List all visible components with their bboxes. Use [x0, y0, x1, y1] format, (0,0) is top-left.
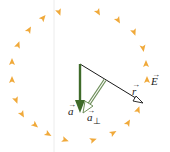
label-a: → a — [68, 106, 74, 117]
field-arrow-icon — [134, 105, 142, 114]
field-arrow-icon — [44, 130, 53, 139]
electric-field-diagram — [0, 0, 170, 152]
field-arrow-icon — [9, 76, 15, 83]
radius-vector-line — [80, 64, 139, 100]
field-arrow-icon — [89, 136, 98, 144]
field-arrow-icon — [61, 136, 70, 144]
field-arrow-icon — [94, 8, 103, 17]
field-arrow-icon — [39, 13, 48, 22]
label-a-perp: → a⊥ — [87, 112, 101, 123]
field-arrow-icon — [18, 110, 27, 119]
label-E: → E — [151, 76, 158, 87]
field-arrow-icon — [14, 40, 22, 49]
field-arrow-icon — [144, 76, 150, 83]
field-arrow-icon — [25, 25, 34, 34]
field-arrow-icon — [114, 16, 123, 25]
field-arrow-icon — [130, 28, 138, 37]
field-arrow-icon — [124, 118, 133, 127]
field-arrow-icon — [12, 96, 20, 105]
label-r: → r — [132, 86, 136, 97]
field-arrow-icon — [55, 8, 63, 17]
field-arrow-icon — [31, 121, 40, 130]
field-arrow-icon — [109, 128, 118, 137]
field-arrow-icon — [143, 60, 149, 67]
field-arrow-icon — [140, 45, 147, 53]
field-arrow-icon — [9, 58, 15, 65]
